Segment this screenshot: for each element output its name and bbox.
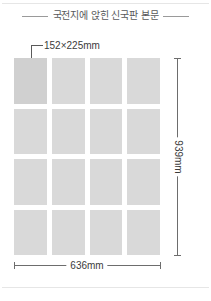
dimension-cap-top: [174, 58, 181, 59]
sheet-height-label: 939mm: [171, 137, 185, 176]
page-cell: [127, 210, 160, 256]
page-cell: [90, 58, 123, 104]
figure-title: 국전지에 앉힌 신국판 본문: [53, 10, 159, 22]
page-cell: [14, 159, 47, 205]
dimension-cap-left: [14, 262, 15, 269]
figure-title-row: 국전지에 앉힌 신국판 본문: [0, 8, 211, 24]
page-cell: [127, 58, 160, 104]
top-edge-rule: [2, 3, 209, 4]
sheet-height-dimension: 939mm: [177, 58, 178, 255]
page-cell: [14, 109, 47, 155]
page-cell: [52, 210, 85, 256]
imposition-diagram: 국전지에 앉힌 신국판 본문 152×225mm 939mm 6: [0, 0, 211, 301]
bottom-edge-rule: [2, 287, 209, 288]
page-cell: [52, 159, 85, 205]
page-cell: [127, 159, 160, 205]
page-cell: [90, 109, 123, 155]
callout-leader-horizontal: [31, 45, 43, 46]
page-cell: [52, 109, 85, 155]
title-rule-left: [22, 16, 48, 17]
page-cell: [14, 58, 47, 104]
page-cell: [90, 210, 123, 256]
page-cell: [127, 109, 160, 155]
dimension-cap-right: [160, 262, 161, 269]
sheet-width-dimension: 636mm: [14, 265, 160, 266]
sheet-page-grid: [14, 58, 160, 255]
dimension-cap-bottom: [174, 255, 181, 256]
sheet-width-label: 636mm: [66, 260, 107, 272]
page-size-callout-label: 152×225mm: [44, 40, 100, 52]
title-rule-right: [163, 16, 189, 17]
page-cell: [52, 58, 85, 104]
page-cell: [90, 159, 123, 205]
page-cell: [14, 210, 47, 256]
